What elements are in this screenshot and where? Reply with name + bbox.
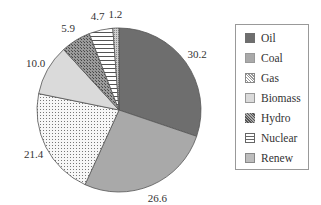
- value-label-nuclear: 4.7: [91, 10, 105, 22]
- legend-item-renew: Renew: [245, 151, 293, 165]
- legend-item-nuclear: Nuclear: [245, 131, 297, 145]
- swatch-hydro-icon: [245, 113, 255, 123]
- swatch-renew-icon: [245, 153, 255, 163]
- value-label-gas: 21.4: [24, 148, 43, 160]
- legend-item-biomass: Biomass: [245, 91, 301, 105]
- swatch-biomass-icon: [245, 93, 255, 103]
- pie-slices: [37, 28, 201, 192]
- legend-item-coal: Coal: [245, 51, 283, 65]
- legend: Oil Coal Gas Biomass Hydro Nuclear Renew: [235, 24, 309, 170]
- value-label-renew: 1.2: [108, 8, 122, 20]
- legend-item-hydro: Hydro: [245, 111, 290, 125]
- swatch-nuclear-icon: [245, 133, 255, 143]
- value-label-hydro: 5.9: [61, 22, 75, 34]
- legend-item-gas: Gas: [245, 71, 279, 85]
- swatch-oil-icon: [245, 33, 255, 43]
- legend-item-oil: Oil: [245, 31, 276, 45]
- value-label-biomass: 10.0: [26, 57, 45, 69]
- swatch-coal-icon: [245, 53, 255, 63]
- swatch-gas-icon: [245, 73, 255, 83]
- value-label-coal: 26.6: [148, 192, 167, 204]
- value-label-oil: 30.2: [188, 48, 207, 60]
